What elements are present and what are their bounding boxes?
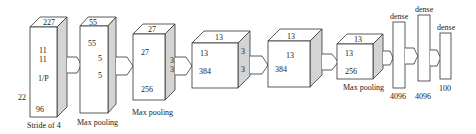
layer-conv5: 13 13 256 Max pooling — [337, 34, 384, 92]
layer-input-front-face — [30, 27, 57, 117]
arrow-5 — [322, 54, 338, 70]
arrow-1 — [67, 57, 81, 73]
layer-conv3-depth: 384 — [199, 67, 211, 76]
arrow-4 — [250, 56, 268, 74]
layer-conv3-size: 13 — [200, 49, 208, 58]
layer-conv4-size: 13 — [286, 51, 294, 60]
layer-fc1-bottom-label: 4096 — [390, 92, 406, 101]
arrow-right-icon — [322, 54, 338, 70]
layer-conv3-side-kernel-w: 3 — [241, 65, 245, 74]
layer-conv3-front-face — [192, 43, 238, 88]
arrow-2 — [116, 57, 133, 75]
layer-fc3-box — [440, 33, 451, 79]
arrow-3 — [175, 57, 192, 75]
layer-fc3-top-label: dense — [437, 23, 456, 32]
arrow-8 — [430, 50, 441, 66]
layer-input-top-label: 227 — [43, 18, 55, 27]
layer-input-kernel-w: 11 — [39, 55, 47, 64]
layer-conv2-side-kernel-w: 3 — [170, 65, 174, 74]
layer-conv2-depth: 256 — [141, 85, 153, 94]
layer-conv5-caption: Max pooling — [343, 83, 384, 92]
layer-fc2-box — [418, 15, 430, 81]
layer-conv1-kernel-w: 5 — [98, 71, 102, 80]
layer-input-io-label: 1/P — [38, 74, 49, 83]
layer-fc2-bottom-label: 4096 — [415, 92, 431, 101]
cnn-architecture-diagram: 227 11 11 1/P 96 22 Stride of 4 55 55 5 … — [0, 0, 476, 134]
layer-conv2-top-label: 27 — [148, 25, 156, 34]
layer-input-kernel-h: 11 — [39, 46, 47, 55]
arrow-right-icon — [430, 50, 441, 66]
layer-conv5-size: 13 — [345, 49, 353, 58]
layer-input-caption: Stride of 4 — [27, 121, 61, 130]
layer-conv1-size: 55 — [88, 39, 96, 48]
layer-conv2-side-kernel-h: 3 — [170, 56, 174, 65]
layer-conv2-caption: Max pooling — [132, 108, 173, 117]
layer-conv1-caption: Max pooling — [77, 118, 118, 127]
layer-input-left-label: 22 — [18, 93, 26, 102]
layer-conv2: 27 27 256 3 3 Max pooling — [132, 24, 175, 117]
layer-fc3-bottom-label: 100 — [439, 84, 451, 93]
layer-conv5-top-label: 13 — [354, 35, 362, 44]
layer-conv5-depth: 256 — [345, 67, 357, 76]
layer-conv4-depth: 384 — [275, 65, 287, 74]
arrow-right-icon — [67, 57, 81, 73]
arrow-right-icon — [405, 48, 418, 64]
layer-conv4: 13 13 384 — [268, 29, 322, 87]
layer-conv2-size: 27 — [141, 48, 149, 57]
layer-conv3-top-label: 13 — [215, 33, 223, 42]
layer-input-depth: 96 — [36, 105, 44, 114]
layer-conv1-kernel-h: 5 — [98, 54, 102, 63]
layer-fc1-box — [393, 22, 405, 88]
arrow-6 — [383, 51, 393, 65]
arrow-right-icon — [383, 51, 393, 65]
layer-input: 227 11 11 1/P 96 22 Stride of 4 — [18, 17, 67, 130]
layer-conv1-side-face — [108, 17, 116, 113]
arrow-right-icon — [116, 57, 133, 75]
layer-conv3: 13 13 384 3 3 — [192, 31, 250, 88]
arrow-right-icon — [250, 56, 268, 74]
arrow-7 — [405, 48, 418, 64]
layer-conv4-front-face — [268, 41, 310, 87]
layer-conv4-top-label: 13 — [287, 32, 295, 41]
layer-conv1-top-label: 55 — [89, 18, 97, 27]
layer-fc1-top-label: dense — [390, 12, 409, 21]
layer-fc3: dense 100 — [437, 23, 456, 93]
layer-fc2-top-label: dense — [415, 5, 434, 14]
layer-input-side-face — [57, 17, 67, 117]
arrow-right-icon — [175, 57, 192, 75]
layer-conv3-side-kernel-h: 3 — [241, 47, 245, 56]
layer-conv1: 55 55 5 5 Max pooling — [77, 17, 118, 127]
